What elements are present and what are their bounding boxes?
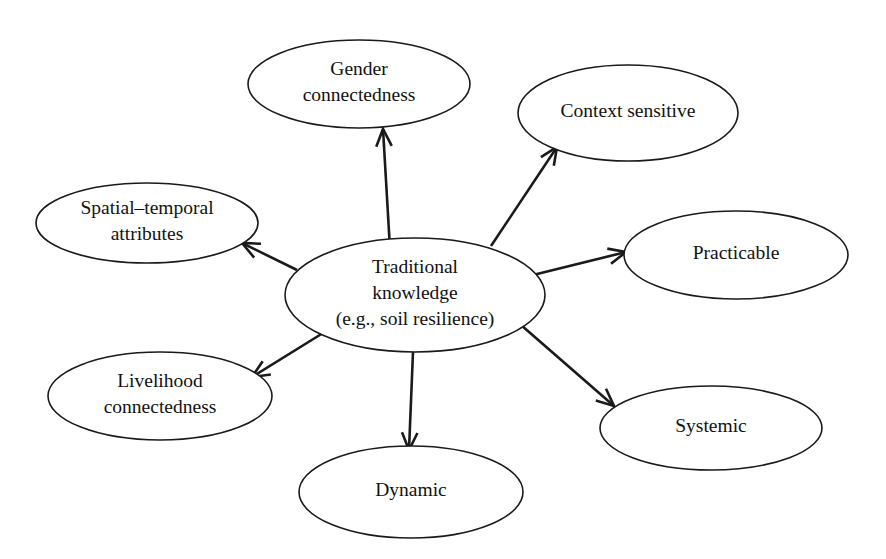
node-spatial-temporal-attributes-label-line-1: Spatial–temporal (80, 197, 214, 218)
arrow-to-systemic (521, 325, 614, 406)
arrow-to-context-sensitive-head (541, 147, 557, 166)
node-livelihood-connectedness[interactable]: Livelihoodconnectedness (48, 352, 272, 440)
node-systemic[interactable]: Systemic (600, 386, 822, 470)
node-systemic-label-line-1: Systemic (675, 415, 747, 436)
arrow-to-gender-connectedness (376, 129, 391, 249)
arrow-to-dynamic (402, 352, 417, 450)
node-traditional-knowledge-label-line-1: Traditional (372, 256, 459, 277)
arrow-to-spatial-temporal-attributes-shaft (242, 243, 297, 270)
node-traditional-knowledge-label-line-2: knowledge (372, 282, 458, 303)
node-gender-connectedness-label-line-1: Gender (330, 58, 388, 79)
arrow-to-spatial-temporal-attributes (242, 243, 297, 270)
node-layer: GenderconnectednessContext sensitivePrac… (36, 40, 848, 538)
node-dynamic-label-line-1: Dynamic (375, 479, 447, 500)
node-livelihood-connectedness-label-line-2: connectedness (104, 396, 217, 417)
arrow-to-context-sensitive (491, 147, 557, 246)
diagram-canvas: GenderconnectednessContext sensitivePrac… (0, 0, 886, 559)
concept-map-svg: GenderconnectednessContext sensitivePrac… (0, 0, 886, 559)
arrow-to-systemic-shaft (521, 325, 614, 406)
node-spatial-temporal-attributes-label-line-2: attributes (111, 223, 184, 244)
arrow-to-context-sensitive-shaft (491, 147, 557, 246)
node-traditional-knowledge-label-line-3: (e.g., soil resilience) (336, 308, 495, 330)
arrow-to-practicable (533, 249, 626, 275)
node-context-sensitive[interactable]: Context sensitive (518, 65, 738, 161)
arrow-to-dynamic-shaft (409, 352, 413, 450)
arrow-to-livelihood-connectedness (252, 333, 323, 377)
node-context-sensitive-label-line-1: Context sensitive (561, 100, 696, 121)
arrow-to-gender-connectedness-shaft (383, 129, 390, 249)
node-dynamic[interactable]: Dynamic (299, 446, 523, 538)
node-gender-connectedness-label-line-2: connectedness (303, 84, 416, 105)
node-practicable-label-line-1: Practicable (693, 242, 780, 263)
node-gender-connectedness[interactable]: Genderconnectedness (248, 40, 470, 128)
node-spatial-temporal-attributes[interactable]: Spatial–temporalattributes (36, 183, 258, 263)
node-traditional-knowledge[interactable]: Traditionalknowledge(e.g., soil resilien… (285, 238, 545, 352)
node-livelihood-connectedness-label-line-1: Livelihood (117, 370, 203, 391)
node-practicable[interactable]: Practicable (624, 211, 848, 299)
arrow-to-livelihood-connectedness-shaft (252, 333, 323, 377)
